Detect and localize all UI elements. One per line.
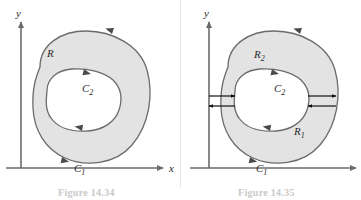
axis-label-y: y [15,7,21,19]
curve-C2 [234,69,309,131]
curve-label-C1: C1 [74,162,85,177]
region-R1-R2 [221,31,338,163]
direction-arrow-C1-top [292,25,302,34]
region-label-R: R [46,47,54,59]
figure-captions: Figure 14.34 Figure 14.35 [0,188,361,200]
direction-arrow-C1-top [104,25,114,34]
curve-label-C2: C2 [82,82,93,97]
figure-caption-left: Figure 14.34 [58,188,115,198]
panel-divider [180,0,181,188]
direction-arrow-C2-bottom [262,123,271,131]
figure-root: y x R C2 C1 [0,0,361,200]
axis-label-x: x [168,162,174,174]
figure-panel-left: y x R C2 C1 [0,0,180,200]
curve-label-C2: C2 [274,82,285,97]
curve-C2 [46,69,121,131]
figure-caption-right: Figure 14.35 [238,188,295,198]
figure-panel-right: y R2 C2 R1 C1 [180,0,360,200]
direction-arrow-C2-bottom [74,123,83,131]
axis-label-y: y [203,7,209,19]
curve-label-C1: C1 [256,162,267,177]
